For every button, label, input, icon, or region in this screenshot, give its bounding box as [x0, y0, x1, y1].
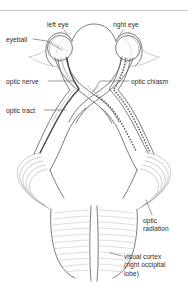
- right-optic-tract: [97, 58, 154, 154]
- visual-pathway-figure: left eye right eye eyeball optic nerve o…: [0, 0, 188, 293]
- midbrain-body-outline: [50, 108, 137, 198]
- label-left-eye: left eye: [47, 21, 69, 29]
- label-optic-radiation-line2: radiation: [143, 225, 169, 232]
- label-optic-tract: optic tract: [6, 107, 35, 115]
- visual-pathway-illustration: [0, 0, 188, 293]
- right-eyeball: [116, 36, 141, 62]
- left-optic-radiation: [17, 153, 51, 210]
- label-visual-cortex: visual cortex (right occipital lobe): [124, 253, 186, 278]
- label-optic-chiasm: optic chiasm: [131, 78, 168, 86]
- label-optic-radiation-line1: optic: [143, 217, 157, 224]
- label-visual-cortex-line3: lobe): [124, 270, 139, 277]
- left-optic-tract: [34, 58, 79, 154]
- right-optic-radiation: [137, 153, 171, 210]
- label-visual-cortex-line1: visual cortex: [124, 253, 161, 260]
- label-right-eye: right eye: [113, 21, 139, 29]
- label-optic-radiation: optic radiation: [143, 217, 188, 234]
- label-optic-nerve: optic nerve: [6, 78, 39, 86]
- label-eyeball: eyeball: [6, 36, 27, 44]
- label-visual-cortex-line2: (right occipital: [124, 261, 165, 268]
